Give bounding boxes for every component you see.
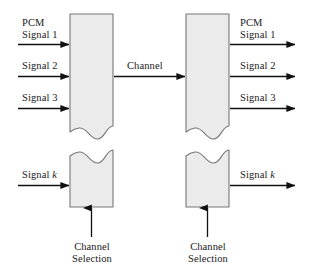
left-multiplexer-lower-block [70,150,113,207]
left-multiplexer-upper-block [70,14,113,139]
channel-label: Channel [127,60,163,73]
output-label-signal-k: Signal k [240,169,275,182]
output-label-signal-k-text: Signal k [240,169,275,180]
input-label-signal-2: Signal 2 [22,60,58,73]
output-label-signal-1-line1: PCM [240,17,262,30]
channel-selection-label-left-line1: Channel [62,241,122,254]
channel-selection-label-right-line2: Selection [178,253,238,266]
right-demultiplexer-upper-block [186,14,229,139]
input-label-signal-k-text: Signal k [22,169,57,180]
input-label-signal-3: Signal 3 [22,92,58,105]
channel-selection-label-left-line2: Selection [62,253,122,266]
input-label-signal-1-line1: PCM [22,17,44,30]
output-label-signal-2: Signal 2 [240,60,276,73]
right-demultiplexer-lower-block [186,150,229,207]
input-label-signal-1-line2: Signal 1 [22,29,58,42]
output-label-signal-1-line2: Signal 1 [240,29,276,42]
input-label-signal-k: Signal k [22,169,57,182]
channel-selection-label-right-line1: Channel [178,241,238,254]
output-label-signal-3: Signal 3 [240,92,276,105]
diagram-canvas: PCM Signal 1 Signal 2 Signal 3 Signal k … [0,0,310,275]
